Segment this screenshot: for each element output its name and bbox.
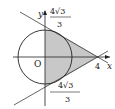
x-axis-label: x [107,61,112,71]
top-intercept-numerator: 4√3 [50,7,65,16]
diagram: y x O 4 4√3 3 4√3 3 [0,0,115,109]
bottom-intercept-numerator: 4√3 [58,81,73,90]
y-axis-arrow [43,10,47,15]
x-intercept-label: 4 [95,62,100,71]
y-axis-label: y [37,9,44,19]
bottom-intercept-denominator: 3 [65,95,70,104]
origin-label: O [34,59,41,69]
top-intercept-denominator: 3 [57,20,62,29]
x-axis-arrow [105,55,110,59]
